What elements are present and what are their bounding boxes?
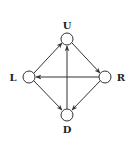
edge-l-to-u: [34, 43, 62, 73]
node-d: [61, 109, 73, 121]
label-r: R: [117, 72, 126, 83]
node-u: [61, 33, 73, 45]
label-u: U: [63, 20, 72, 31]
node-l: [23, 71, 35, 83]
edge-u-to-r: [72, 43, 100, 73]
edge-r-to-d: [72, 81, 100, 110]
graph-diagram: U L R D: [0, 0, 132, 142]
node-r: [99, 71, 111, 83]
edge-l-to-d: [34, 81, 62, 110]
label-l: L: [9, 72, 16, 83]
label-d: D: [63, 124, 72, 135]
